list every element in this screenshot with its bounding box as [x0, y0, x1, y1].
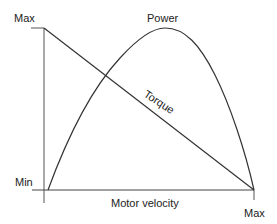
x-max-label: Max [244, 207, 265, 219]
chart: Max Min Max Motor velocity Power Torque [0, 0, 277, 224]
y-min-label: Min [15, 176, 33, 188]
power-label: Power [147, 12, 179, 24]
x-axis-label: Motor velocity [111, 197, 179, 209]
torque-label: Torque [142, 88, 177, 116]
torque-line [44, 28, 254, 190]
y-max-label: Max [14, 12, 35, 24]
